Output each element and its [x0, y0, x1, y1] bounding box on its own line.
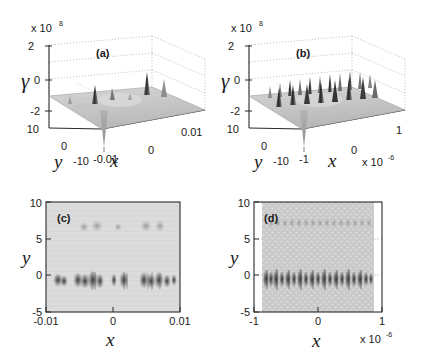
panel-a: x 10 8	[0, 0, 214, 180]
x-exponent-power-d: -6	[386, 331, 392, 338]
x-tick-c-2: 0.01	[169, 315, 190, 327]
spike-down-a	[100, 110, 108, 152]
surface-a	[49, 87, 205, 129]
z-exponent-b: x 10	[231, 22, 252, 34]
x-tick-a-2: 0.01	[181, 126, 202, 138]
z-axis-name-a: γ	[21, 69, 30, 93]
y-tick-a-1: 0	[61, 140, 67, 152]
x-tick-b-0: -1	[299, 153, 309, 165]
y-tick-d-1: 5	[244, 233, 250, 245]
x-exponent-b: x 10	[362, 156, 383, 168]
x-axis-name-d: x	[311, 330, 321, 351]
x-tick-c-1: 0	[110, 315, 116, 327]
y-axis-name-b: y	[252, 151, 263, 172]
z-tick-a-1: 0	[34, 74, 40, 86]
y-tick-d-2: 0	[244, 269, 250, 281]
x-tick-a-1: 0	[148, 144, 154, 156]
y-tick-c-0: 10	[30, 197, 42, 209]
z-tick-a-0: 2	[28, 40, 34, 52]
x-axis-name-c: x	[105, 329, 115, 350]
panel-c: (c) 10 5 0 -5 y -0.01 0 0.01 x	[0, 180, 214, 360]
z-tick-a-2: -2	[30, 105, 40, 117]
z-axis-name-b: γ	[221, 69, 230, 93]
z-tick-b-1: 0	[234, 74, 240, 86]
x-tick-d-0: -1	[249, 315, 259, 327]
panel-c-canvas: (c) 10 5 0 -5 y -0.01 0 0.01 x	[0, 180, 214, 360]
z-tick-b-2: -2	[230, 105, 240, 117]
z-tick-b-0: 2	[228, 40, 234, 52]
panel-a-canvas: x 10 8	[0, 0, 214, 180]
x-exponent-d: x 10	[360, 333, 381, 345]
panel-label-a: (a)	[96, 47, 110, 59]
y-tick-a-0: 10	[27, 123, 39, 135]
y-axis-name-d: y	[228, 247, 239, 268]
panel-label-d: (d)	[264, 212, 278, 224]
band-faint-d	[268, 218, 372, 228]
panel-b-canvas: x 10 8	[214, 0, 428, 180]
z-exponent-a: x 10	[31, 22, 52, 34]
x-tick-c-0: -0.01	[33, 315, 58, 327]
y-tick-c-1: 5	[36, 233, 42, 245]
y-tick-b-2: -10	[273, 155, 289, 167]
y-tick-a-2: -10	[73, 155, 89, 167]
z-exponent-power-b: 8	[259, 20, 263, 27]
y-axis-name-c: y	[20, 247, 31, 268]
panel-b: x 10 8	[214, 0, 428, 180]
figure-root: x 10 8	[0, 0, 428, 360]
x-axis-name-b: x	[327, 150, 337, 171]
x-tick-a-0: -0.01	[93, 153, 118, 165]
x-tick-b-2: 1	[396, 124, 402, 136]
spike-down-b	[300, 110, 308, 152]
y-axis-name-a: y	[52, 151, 63, 172]
panel-d: (d) 10 5 0 -5 y -1 0 1 x x 10 -6	[214, 180, 428, 360]
x-tick-b-1: 0	[351, 144, 357, 156]
panel-label-c: (c)	[57, 212, 71, 224]
x-exponent-power-b: -6	[388, 154, 394, 161]
x-tick-d-1: 0	[315, 315, 321, 327]
y-tick-b-1: 0	[261, 140, 267, 152]
y-tick-c-2: 0	[36, 269, 42, 281]
z-exponent-power-a: 8	[59, 20, 63, 27]
panel-d-canvas: (d) 10 5 0 -5 y -1 0 1 x x 10 -6	[214, 180, 428, 360]
x-tick-d-2: 1	[379, 315, 385, 327]
y-tick-b-0: 10	[227, 123, 239, 135]
surface-b	[249, 87, 405, 129]
panel-label-b: (b)	[296, 47, 310, 59]
y-tick-d-0: 10	[238, 197, 250, 209]
